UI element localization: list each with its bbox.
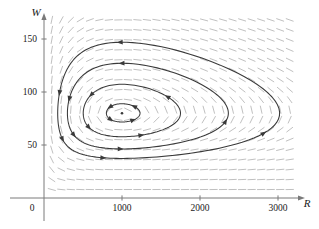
trajectory-curves	[58, 40, 280, 160]
y-tick-label-0: 50	[28, 140, 38, 150]
y-tick-label-1: 100	[23, 87, 38, 97]
y-axis-label: W	[31, 6, 41, 18]
direction-field	[48, 16, 294, 191]
phase-portrait-svg: 100020003000501001500RW	[0, 0, 319, 229]
x-tick-label-0: 1000	[113, 203, 132, 213]
phase-portrait-figure: 100020003000501001500RW	[0, 0, 319, 229]
x-axis-label: R	[303, 197, 311, 209]
x-tick-label-2: 3000	[269, 203, 288, 213]
equilibrium-point	[121, 112, 124, 115]
axis-labels: 100020003000501001500RW	[23, 6, 311, 213]
x-tick-label-1: 2000	[191, 203, 210, 213]
origin-label: 0	[30, 203, 35, 213]
y-tick-label-2: 150	[23, 34, 38, 44]
